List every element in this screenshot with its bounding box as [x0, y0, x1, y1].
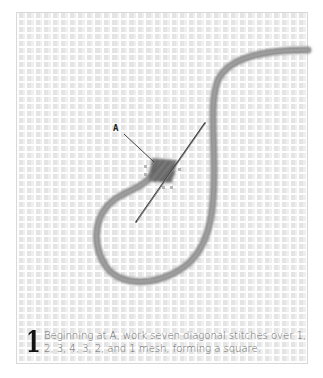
needle: [136, 123, 205, 222]
stitch-illustration: [0, 0, 323, 378]
point-label-a: A: [113, 123, 118, 133]
leader-line-a: [124, 134, 154, 162]
step-instructions: Beginning at A, work seven diagonal stit…: [44, 329, 306, 355]
step-number: 1: [26, 328, 36, 356]
step-caption: 1 Beginning at A, work seven diagonal st…: [26, 328, 306, 356]
